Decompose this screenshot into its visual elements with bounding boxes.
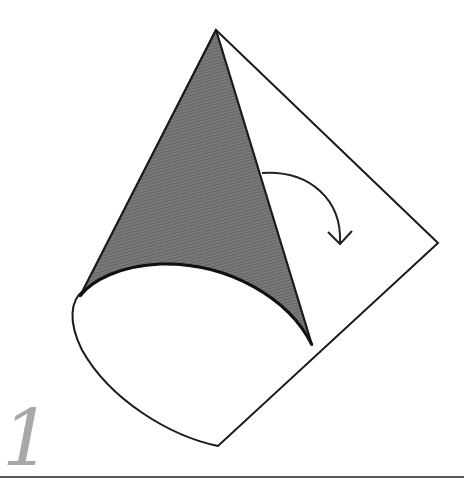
divider-line <box>0 476 464 478</box>
step-number: 1 <box>2 400 52 478</box>
folding-diagram <box>0 0 464 487</box>
